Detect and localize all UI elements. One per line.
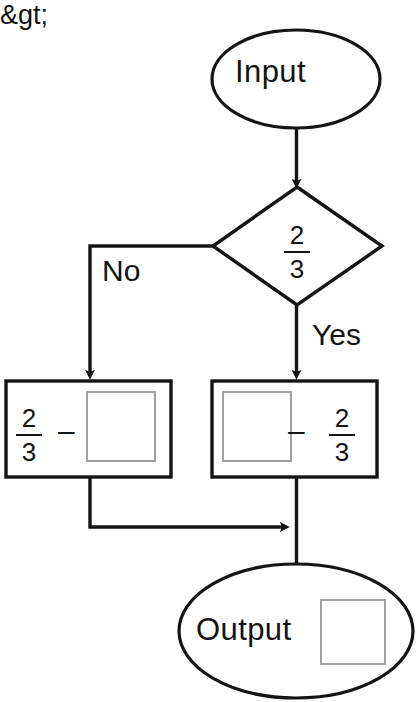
process-no-fraction-two-thirds: 2 3 bbox=[16, 405, 42, 465]
decision-fraction-two-thirds: 2 3 bbox=[284, 222, 310, 282]
process-yes-fraction-numerator: 2 bbox=[329, 405, 355, 431]
edge-no-to-merge bbox=[90, 477, 285, 527]
process-yes-fraction-denominator: 3 bbox=[329, 439, 355, 465]
start-node-label: Input bbox=[235, 56, 306, 87]
end-node-answer-placeholder[interactable] bbox=[320, 599, 386, 665]
flowchart-canvas: Input &gt; 2 3 No Yes 2 3 – – 2 3 Output bbox=[0, 0, 419, 702]
decision-fraction-bar bbox=[284, 251, 310, 253]
process-yes-answer-placeholder[interactable] bbox=[222, 391, 292, 462]
decision-operator-greater-than: &gt; bbox=[0, 0, 48, 31]
end-node-label: Output bbox=[196, 614, 291, 645]
process-yes-fraction-two-thirds: 2 3 bbox=[329, 405, 355, 465]
decision-fraction-denominator: 3 bbox=[284, 256, 310, 282]
process-no-answer-placeholder[interactable] bbox=[86, 391, 156, 462]
process-no-fraction-numerator: 2 bbox=[16, 405, 42, 431]
process-no-fraction-denominator: 3 bbox=[16, 439, 42, 465]
process-yes-fraction-bar bbox=[329, 434, 355, 436]
edge-label-no: No bbox=[102, 256, 140, 286]
flowchart-shapes-layer bbox=[0, 0, 419, 702]
edge-label-yes: Yes bbox=[312, 320, 361, 350]
process-no-fraction-bar bbox=[16, 434, 42, 436]
process-yes-minus-operator: – bbox=[288, 414, 305, 448]
decision-fraction-numerator: 2 bbox=[284, 222, 310, 248]
process-no-minus-operator: – bbox=[58, 414, 75, 448]
